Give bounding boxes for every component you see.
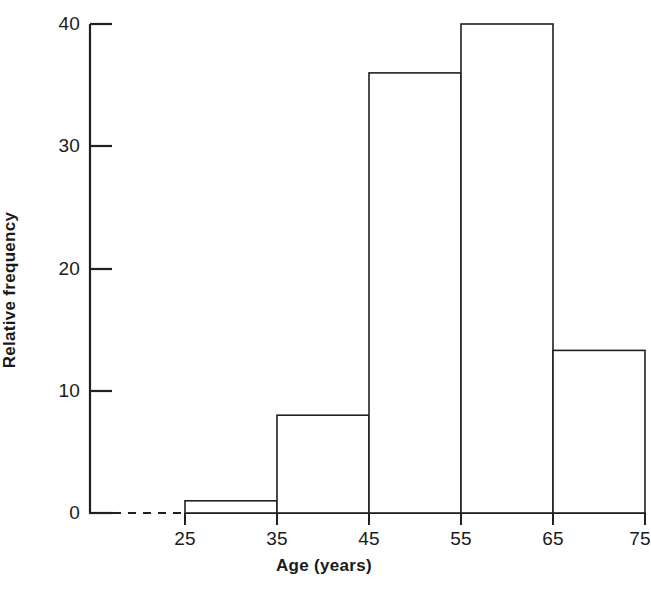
y-axis-title: Relative frequency (0, 212, 20, 369)
bar-25-35 (185, 501, 277, 513)
bar-65-75 (553, 350, 645, 513)
y-tick-label-0: 0 (34, 502, 80, 524)
bar-35-45 (277, 415, 369, 513)
y-tick-label-40: 40 (34, 13, 80, 35)
x-tick-label-25: 25 (174, 528, 196, 550)
x-axis-title: Age (years) (0, 556, 648, 576)
x-tick-label-35: 35 (266, 528, 288, 550)
bar-55-65 (461, 24, 553, 513)
x-tick-label-65: 65 (542, 528, 564, 550)
x-tick-label-55: 55 (450, 528, 472, 550)
x-tick-label-75: 75 (629, 528, 651, 550)
y-tick-label-20: 20 (34, 258, 80, 280)
y-tick-label-10: 10 (34, 380, 80, 402)
bar-45-55 (369, 73, 461, 513)
y-tick-label-30: 30 (34, 135, 80, 157)
x-tick-label-45: 45 (358, 528, 380, 550)
